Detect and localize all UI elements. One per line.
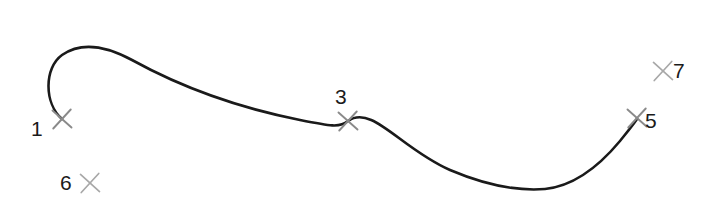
point-label-3: 3 xyxy=(335,86,347,107)
point-label-7: 7 xyxy=(673,60,685,81)
figure-background xyxy=(0,0,716,207)
point-label-5: 5 xyxy=(645,110,657,131)
spline-figure: 13567 xyxy=(0,0,716,207)
point-label-6: 6 xyxy=(60,172,72,193)
point-label-1: 1 xyxy=(31,118,43,139)
figure-canvas xyxy=(0,0,716,207)
